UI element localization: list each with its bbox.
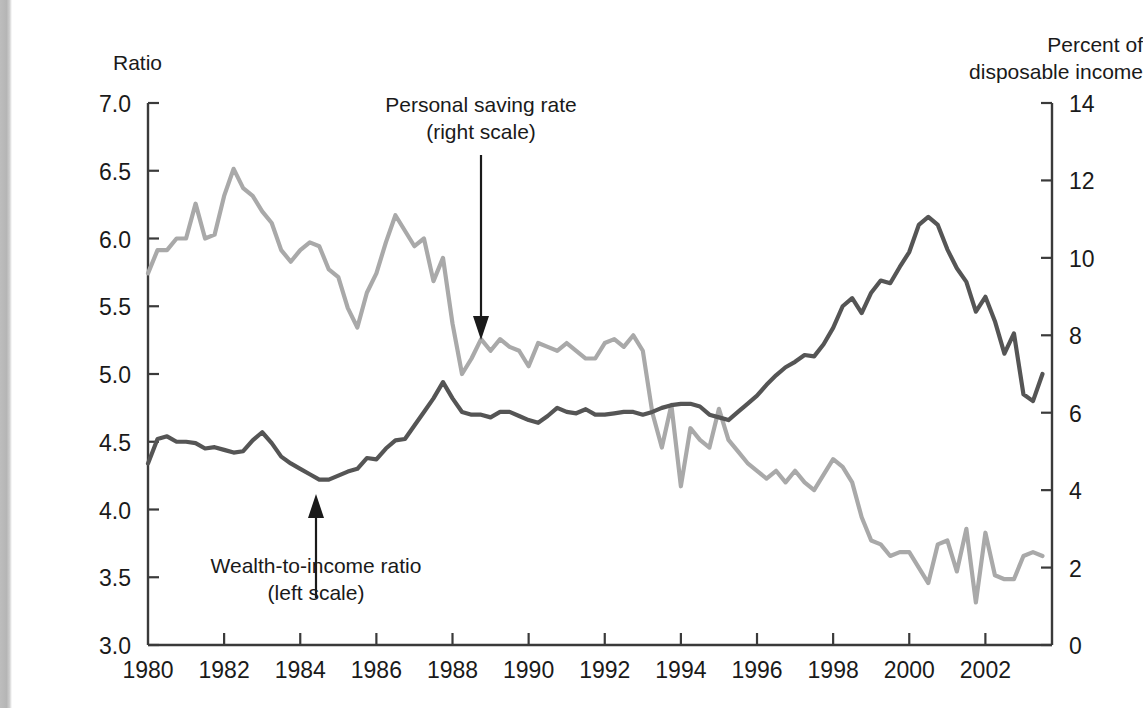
annotation-wealth-label-line2: (left scale) [268, 581, 365, 604]
figure-page: 3.03.54.04.55.05.56.06.57.0 02468101214 … [0, 0, 1143, 708]
x-tick-label: 1984 [275, 657, 326, 683]
left-tick-label: 4.5 [99, 430, 131, 456]
personal-saving-rate-line [148, 169, 1042, 603]
x-tick-label: 1992 [579, 657, 630, 683]
right-tick-label: 10 [1069, 246, 1095, 272]
annotation-personal-saving-rate: Personal saving rate (right scale) [385, 93, 576, 340]
left-tick-label: 6.5 [99, 159, 131, 185]
left-tick-label: 3.0 [99, 633, 131, 659]
annotation-saving-label-line1: Personal saving rate [385, 93, 576, 116]
right-tick-label: 12 [1069, 168, 1095, 194]
x-tick-label: 1986 [351, 657, 402, 683]
right-tick-label: 4 [1069, 478, 1082, 504]
x-tick-label: 1990 [503, 657, 554, 683]
x-tick-label: 1988 [427, 657, 478, 683]
x-tick-label: 1982 [199, 657, 250, 683]
wealth-to-income-ratio-line [148, 217, 1042, 480]
annotation-wealth-arrow-head [308, 494, 324, 518]
left-tick-label: 3.5 [99, 565, 131, 591]
right-tick-label: 8 [1069, 323, 1082, 349]
right-tick-label: 14 [1069, 91, 1095, 117]
annotation-saving-arrow-head [473, 316, 489, 340]
right-axis-title-line1: Percent of [1047, 33, 1143, 56]
left-tick-label: 6.0 [99, 227, 131, 253]
right-tick-label: 0 [1069, 633, 1082, 659]
x-axis-ticks: 1980198219841986198819901992199419961998… [122, 633, 1011, 683]
x-tick-label: 1998 [808, 657, 859, 683]
wealth-and-saving-chart: 3.03.54.04.55.05.56.06.57.0 02468101214 … [0, 0, 1143, 708]
left-axis-ticks: 3.03.54.04.55.05.56.06.57.0 [99, 91, 159, 659]
left-tick-label: 4.0 [99, 498, 131, 524]
right-tick-label: 2 [1069, 556, 1082, 582]
annotation-saving-label-line2: (right scale) [426, 120, 536, 143]
left-tick-label: 7.0 [99, 91, 131, 117]
x-tick-label: 1996 [731, 657, 782, 683]
x-tick-label: 2002 [960, 657, 1011, 683]
annotation-wealth-label-line1: Wealth-to-income ratio [211, 554, 422, 577]
x-tick-label: 1994 [655, 657, 706, 683]
annotation-wealth-to-income-ratio: Wealth-to-income ratio (left scale) [211, 494, 422, 604]
x-tick-label: 1980 [122, 657, 173, 683]
x-tick-label: 2000 [884, 657, 935, 683]
right-axis-ticks: 02468101214 [1041, 91, 1095, 659]
left-tick-label: 5.0 [99, 362, 131, 388]
right-axis-title-line2: disposable income [969, 60, 1143, 83]
right-tick-label: 6 [1069, 401, 1082, 427]
left-axis-title: Ratio [113, 51, 162, 74]
left-tick-label: 5.5 [99, 294, 131, 320]
